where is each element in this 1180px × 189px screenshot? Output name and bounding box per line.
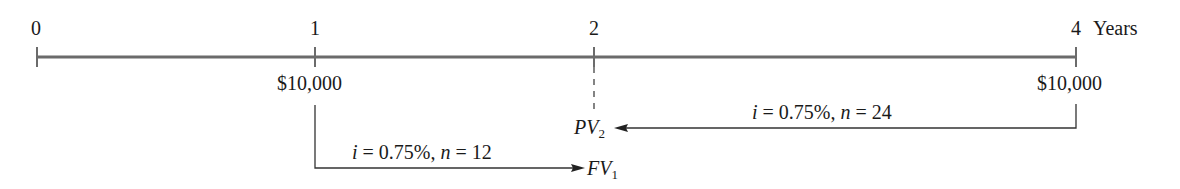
- pv2-label: PV2: [574, 117, 605, 137]
- cash-flow-period-1: $10,000: [277, 73, 342, 93]
- discount-rate-label: i = 0.75%, n = 24: [752, 102, 892, 122]
- compound-rate-label: i = 0.75%, n = 12: [352, 142, 492, 162]
- arrowhead-right-icon: [571, 164, 585, 172]
- arrowhead-left-icon: [614, 124, 628, 132]
- axis-unit-label: Years: [1093, 18, 1138, 38]
- tick-label-4: 4: [1071, 18, 1081, 38]
- tick-label-0: 0: [31, 18, 41, 38]
- cash-flow-period-4: $10,000: [1037, 73, 1102, 93]
- tick-label-2: 2: [589, 18, 599, 38]
- fv1-label: FV1: [587, 158, 618, 178]
- tick-label-1: 1: [310, 18, 320, 38]
